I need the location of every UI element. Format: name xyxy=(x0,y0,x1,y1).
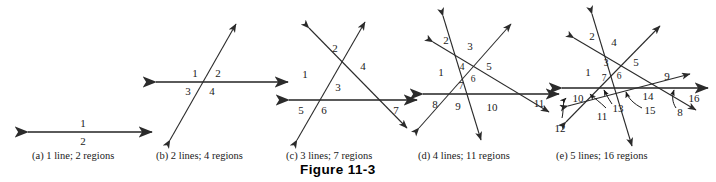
panel-c-region-label-4: 4 xyxy=(360,60,366,72)
panel-c-region-label-3: 3 xyxy=(335,81,341,93)
panel-c-caption: (c) 3 lines; 7 regions xyxy=(286,150,372,161)
panel-d-region-label-2: 2 xyxy=(443,34,449,46)
panel-d-caption: (d) 4 lines; 11 regions xyxy=(418,150,510,161)
panel-e-region-label-9: 9 xyxy=(664,70,670,82)
panel-e-line-2 xyxy=(592,14,632,146)
panel-e-region-label-15: 15 xyxy=(645,104,657,116)
panel-e-region-label-3: 3 xyxy=(604,58,609,68)
panel-e-region-label-16: 16 xyxy=(689,92,701,104)
panel-e-region-label-10: 10 xyxy=(573,92,585,104)
panel-b-caption: (b) 2 lines; 4 regions xyxy=(156,150,243,161)
panel-c-region-label-6: 6 xyxy=(321,104,327,116)
panel-e-region-label-1: 1 xyxy=(585,66,591,78)
panel-b-region-label-3: 3 xyxy=(185,85,191,97)
panel-d-region-label-8: 8 xyxy=(432,98,438,110)
figure-11-3: 1 2 (a) 1 line; 2 regions 1 2 3 4 (b) 2 … xyxy=(0,0,716,182)
panel-a-region-label-2: 2 xyxy=(80,135,86,147)
panel-d-region-label-9: 9 xyxy=(455,100,461,112)
panel-e-leader-15 xyxy=(626,92,642,108)
panel-c-region-label-1: 1 xyxy=(302,68,308,80)
panel-e-region-label-14: 14 xyxy=(643,90,655,102)
panel-d-region-label-3: 3 xyxy=(467,40,473,52)
panel-e-leader-8 xyxy=(673,90,676,108)
panel-d-region-label-4: 4 xyxy=(460,62,465,72)
panel-a-caption: (a) 1 line; 2 regions xyxy=(32,150,114,161)
panel-e-leader-13 xyxy=(604,90,612,104)
panel-e-line-5 xyxy=(568,74,690,106)
panel-b-region-label-1: 1 xyxy=(192,67,198,79)
panel-c-region-label-5: 5 xyxy=(298,104,304,116)
panel-d-region-label-11: 11 xyxy=(534,97,545,109)
panel-e-region-label-11: 11 xyxy=(597,110,608,122)
panel-e-region-label-12: 12 xyxy=(555,122,566,134)
panel-b-region-label-2: 2 xyxy=(215,67,221,79)
panel-e-region-label-4: 4 xyxy=(611,36,617,48)
panel-d-region-label-6: 6 xyxy=(471,74,476,84)
panel-c-line-2 xyxy=(297,22,365,140)
panel-c-region-label-2: 2 xyxy=(332,42,338,54)
panel-e-caption: (e) 5 lines; 16 regions xyxy=(556,150,648,161)
panel-e-leader-12 xyxy=(562,98,566,118)
panel-d-region-label-1: 1 xyxy=(438,66,444,78)
panel-a-region-label-1: 1 xyxy=(80,117,86,129)
panel-d-region-label-10: 10 xyxy=(487,101,499,113)
panel-e-region-label-2: 2 xyxy=(589,30,595,42)
panel-e-region-label-6: 6 xyxy=(617,71,622,81)
panel-d-region-label-5: 5 xyxy=(486,60,492,72)
panel-e-region-label-13: 13 xyxy=(613,102,625,114)
panel-b-region-label-4: 4 xyxy=(209,85,215,97)
panel-e-region-label-8: 8 xyxy=(677,106,683,118)
figure-caption: Figure 11-3 xyxy=(300,162,376,177)
panel-e-region-label-5: 5 xyxy=(633,56,639,68)
panel-e-region-label-7: 7 xyxy=(602,73,607,83)
panel-c-region-label-7: 7 xyxy=(393,104,399,116)
panel-d-region-label-7: 7 xyxy=(459,81,464,91)
